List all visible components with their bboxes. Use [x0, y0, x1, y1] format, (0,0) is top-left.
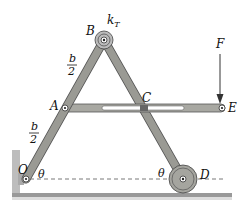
ground [12, 193, 232, 197]
label-b: B [85, 24, 95, 38]
arrowhead-icon [217, 94, 224, 104]
label-c: C [142, 91, 151, 105]
mechanism-diagram: B kT F A C E O D θ θ b 2 b 2 [0, 0, 248, 216]
label-theta-left: θ [38, 168, 45, 181]
label-spring: kT [107, 13, 120, 29]
slider-c [140, 105, 148, 111]
label-e: E [227, 101, 237, 115]
label-force: F [215, 37, 225, 51]
label-half-upper: b 2 [67, 52, 77, 78]
label-o: O [18, 163, 28, 177]
diagram-svg: B kT F A C E O D θ θ b 2 b 2 [0, 0, 248, 216]
svg-text:b: b [69, 52, 76, 65]
pin-a [62, 105, 68, 111]
pin-e [219, 105, 225, 111]
svg-text:2: 2 [67, 65, 75, 78]
label-a: A [49, 99, 59, 113]
label-d: D [199, 168, 210, 182]
label-half-lower: b 2 [29, 120, 39, 146]
label-theta-right: θ [158, 167, 165, 180]
svg-text:b: b [31, 120, 38, 133]
svg-text:2: 2 [29, 133, 37, 146]
